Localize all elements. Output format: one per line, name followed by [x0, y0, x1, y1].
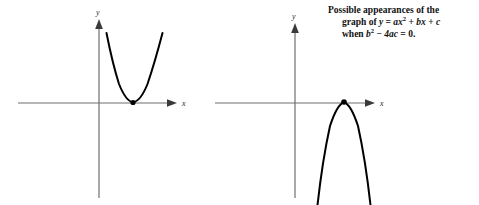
left-y-axis-label: y — [95, 8, 100, 17]
caption-line-3: when b2 − 4ac = 0. — [328, 28, 478, 40]
right-y-axis-arrowhead — [291, 23, 299, 33]
left-parabola-curve — [107, 33, 163, 102]
left-panel: x y — [18, 8, 186, 198]
left-vertex-point — [130, 100, 135, 105]
caption-line-2: graph of y = ax2 + bx + c — [328, 16, 478, 28]
right-x-axis-arrowhead — [365, 99, 375, 107]
right-y-axis-label: y — [291, 12, 296, 21]
right-panel: x y — [215, 12, 384, 205]
right-x-axis-label: x — [379, 99, 384, 108]
left-x-axis-label: x — [181, 99, 186, 108]
left-x-axis-arrowhead — [167, 99, 177, 107]
right-parabola-curve — [318, 102, 371, 205]
figure-caption: Possible appearances of the graph of y =… — [328, 4, 478, 41]
left-y-axis-arrowhead — [95, 19, 103, 29]
right-vertex-point — [341, 99, 347, 105]
